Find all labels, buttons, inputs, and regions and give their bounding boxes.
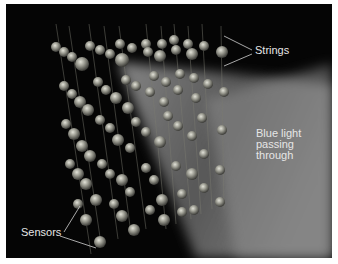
blue-light-label: Blue light passing through <box>256 128 301 161</box>
strings-label: Strings <box>255 45 289 56</box>
sensor-array-diagram: Strings Blue light passing through Senso… <box>6 4 332 258</box>
blue-light-label-line3: through <box>256 150 301 161</box>
sensors-label: Sensors <box>21 227 61 238</box>
